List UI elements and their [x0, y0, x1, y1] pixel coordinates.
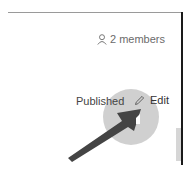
published-status: Published	[76, 95, 124, 107]
members-label: 2 members	[110, 33, 165, 45]
edit-label: Edit	[150, 94, 169, 106]
pencil-icon	[134, 95, 145, 106]
top-divider	[8, 12, 183, 13]
scrollbar[interactable]	[176, 128, 181, 161]
annotation-arrow-icon	[0, 0, 193, 172]
members-count[interactable]: 2 members	[97, 33, 165, 45]
person-icon	[97, 34, 107, 45]
edit-button[interactable]: Edit	[134, 94, 169, 106]
panel-right-border	[181, 12, 183, 165]
